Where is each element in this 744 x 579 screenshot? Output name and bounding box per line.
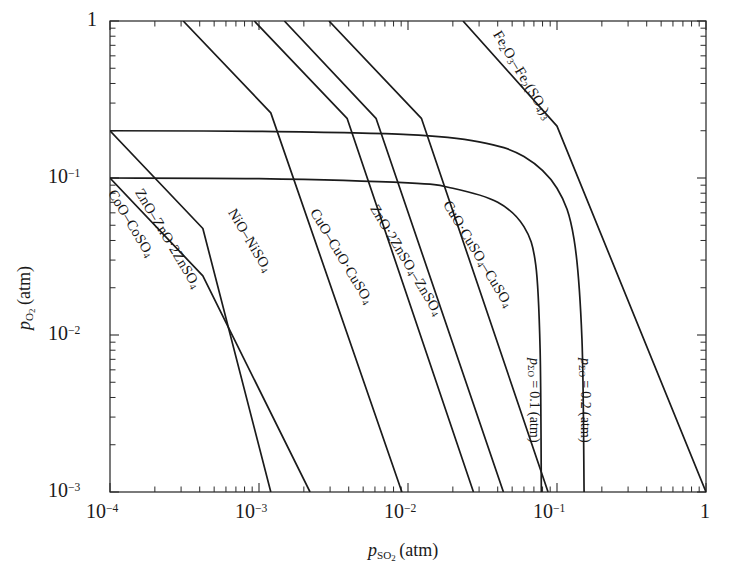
figure-canvas: 10−4 10−3 10−2 10−1 1 1 10−1 10−2 10−3 p… [0, 0, 744, 579]
curve-4 [254, 21, 473, 492]
x-tick-label-4: 1 [700, 500, 710, 523]
x-tick-label-2: 10−2 [384, 500, 416, 523]
x-tick-label-1: 10−3 [235, 500, 267, 523]
plot-svg [0, 0, 744, 579]
y-axis-title: pO2 (atm) [14, 266, 37, 330]
y-tick-label-3: 10−3 [48, 479, 80, 502]
y-tick-label-0: 1 [87, 8, 97, 31]
y-tick-label-2: 10−2 [48, 322, 80, 345]
x-tick-label-0: 10−4 [86, 500, 118, 523]
curve-6 [329, 21, 548, 492]
curve-label-psigmao-02: pΣO = 0.2 (atm) [577, 358, 592, 443]
curve-9 [110, 131, 584, 492]
y-tick-label-1: 10−1 [48, 165, 80, 188]
x-axis-title: pSO2 (atm) [368, 540, 438, 563]
curve-3 [183, 21, 402, 492]
x-tick-label-3: 10−1 [533, 500, 565, 523]
curve-label-psigmao-01: pΣO = 0.1 (atm) [526, 358, 541, 443]
curve-1 [110, 131, 271, 492]
